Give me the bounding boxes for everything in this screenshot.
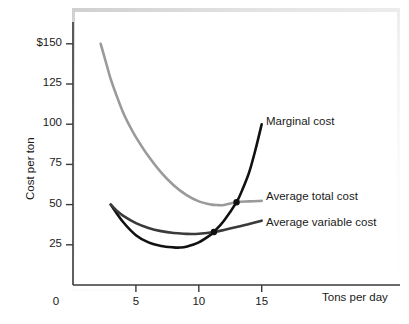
- x-tick-label: 15: [242, 295, 282, 307]
- axes: [73, 22, 400, 285]
- curve-average-variable-cost: [111, 205, 262, 234]
- y-tick-label: 25: [10, 237, 62, 249]
- cost-curves-figure: 255075100125$150 051015 Cost per ton Ton…: [0, 0, 409, 324]
- curve-marginal-cost: [111, 124, 262, 247]
- marginal-cost-label: Marginal cost: [266, 115, 334, 127]
- data-series: [101, 44, 262, 248]
- x-tick-label: 10: [179, 295, 219, 307]
- mc-crosses-avc-marker: [211, 229, 217, 235]
- x-tick-label: 0: [36, 295, 76, 307]
- y-tick-label: 125: [10, 76, 62, 88]
- x-tick-label: 5: [116, 295, 156, 307]
- average-variable-cost-label: Average variable cost: [266, 216, 376, 228]
- y-axis-title: Cost per ton: [24, 137, 36, 200]
- axis-ticks: [66, 44, 262, 292]
- curve-average-total-cost: [101, 44, 262, 205]
- y-tick-label: 75: [10, 156, 62, 168]
- x-axis-title: Tons per day: [322, 291, 388, 303]
- average-total-cost-label: Average total cost: [266, 190, 358, 202]
- y-tick-label: 50: [10, 197, 62, 209]
- y-tick-label: $150: [10, 36, 62, 48]
- mc-crosses-atc-marker: [233, 199, 239, 205]
- y-tick-label: 100: [10, 116, 62, 128]
